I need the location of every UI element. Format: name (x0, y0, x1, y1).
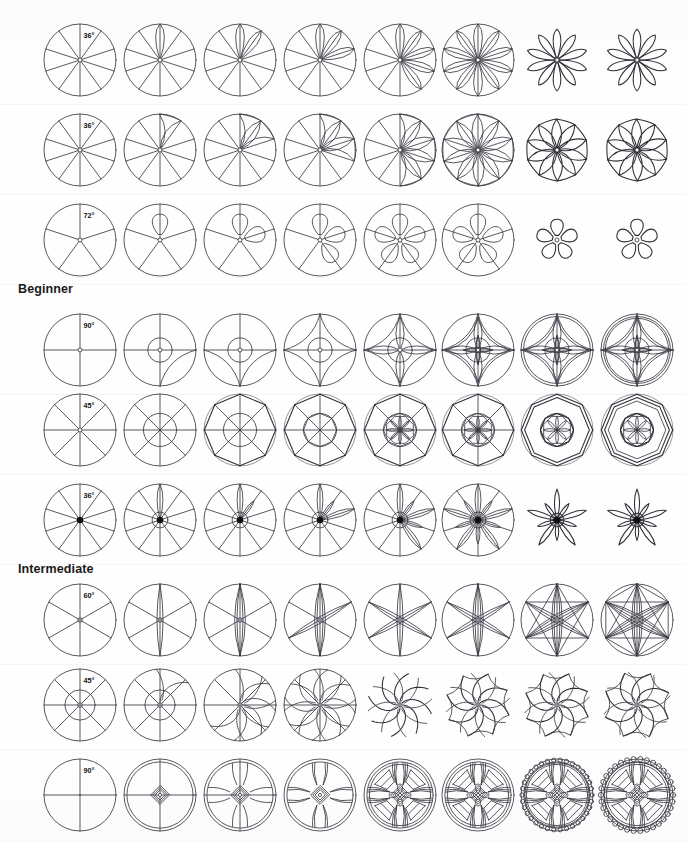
pattern-figure: 45° (41, 661, 119, 749)
section-label-beginner: Beginner (18, 282, 73, 296)
scan-artifact-line (0, 194, 687, 195)
pattern-figure (361, 106, 439, 194)
pattern-figure (361, 196, 439, 284)
pattern-row: 72° (0, 196, 687, 284)
pattern-figure (439, 576, 517, 664)
pattern-figure (281, 476, 359, 564)
pattern-figure (439, 16, 517, 104)
pattern-figure: 60° (41, 576, 119, 664)
pattern-figure (201, 16, 279, 104)
pattern-row: 60° (0, 576, 687, 664)
pattern-figure (518, 661, 596, 749)
pattern-figure: 36° (41, 476, 119, 564)
pattern-figure (121, 196, 199, 284)
pattern-figure (361, 661, 439, 749)
pattern-figure (361, 306, 439, 394)
pattern-figure (439, 751, 517, 839)
pattern-row: 90° (0, 751, 687, 839)
pattern-figure (201, 306, 279, 394)
pattern-figure (201, 751, 279, 839)
pattern-figure (201, 196, 279, 284)
pattern-figure (518, 196, 596, 284)
pattern-figure (281, 751, 359, 839)
pattern-figure (121, 751, 199, 839)
pattern-figure: 72° (41, 196, 119, 284)
pattern-row: 36° (0, 106, 687, 194)
pattern-figure (201, 476, 279, 564)
pattern-figure (201, 106, 279, 194)
pattern-figure (281, 106, 359, 194)
angle-label: 72° (84, 211, 95, 220)
angle-label: 45° (84, 676, 95, 685)
section-label-intermediate: Intermediate (18, 562, 94, 576)
pattern-figure (518, 386, 596, 474)
pattern-figure (598, 196, 676, 284)
pattern-figure (518, 751, 596, 839)
pattern-figure (598, 476, 676, 564)
pattern-figure (598, 661, 676, 749)
pattern-figure: 90° (41, 751, 119, 839)
pattern-figure (201, 386, 279, 474)
angle-label: 36° (84, 31, 95, 40)
angle-label: 90° (84, 766, 95, 775)
pattern-figure (598, 386, 676, 474)
angle-label: 60° (84, 591, 95, 600)
pattern-figure (361, 386, 439, 474)
pattern-figure (121, 386, 199, 474)
pattern-figure (518, 106, 596, 194)
pattern-figure: 45° (41, 386, 119, 474)
pattern-figure (281, 196, 359, 284)
pattern-figure (121, 306, 199, 394)
pattern-figure (598, 16, 676, 104)
pattern-figure (439, 106, 517, 194)
pattern-figure (121, 576, 199, 664)
scan-artifact-line (0, 474, 687, 475)
pattern-row: 36° (0, 476, 687, 564)
pattern-row: 90° (0, 306, 687, 394)
pattern-figure (361, 476, 439, 564)
scan-artifact-line (0, 749, 687, 750)
pattern-figure: 90° (41, 306, 119, 394)
pattern-figure (281, 16, 359, 104)
pattern-figure: 36° (41, 16, 119, 104)
pattern-figure (518, 306, 596, 394)
angle-label: 36° (84, 121, 95, 130)
pattern-figure (439, 476, 517, 564)
pattern-figure (201, 661, 279, 749)
scan-artifact-line (0, 104, 687, 105)
scan-artifact-line (0, 564, 687, 565)
angle-label: 36° (84, 491, 95, 500)
pattern-figure (518, 576, 596, 664)
pattern-figure (281, 661, 359, 749)
pattern-figure (439, 196, 517, 284)
pattern-figure (121, 106, 199, 194)
pattern-figure (518, 16, 596, 104)
pattern-figure (121, 476, 199, 564)
pattern-sheet: 36°36°72°90°45°36°60°45°90° (0, 0, 687, 842)
pattern-figure (121, 16, 199, 104)
pattern-row: 45° (0, 386, 687, 474)
pattern-row: 36° (0, 16, 687, 104)
scan-artifact-line (0, 284, 687, 285)
pattern-figure (518, 476, 596, 564)
pattern-figure (598, 106, 676, 194)
pattern-figure (598, 751, 676, 839)
pattern-figure (281, 576, 359, 664)
pattern-figure (598, 306, 676, 394)
angle-label: 90° (84, 321, 95, 330)
pattern-figure (201, 576, 279, 664)
pattern-figure (361, 16, 439, 104)
pattern-figure (281, 386, 359, 474)
pattern-figure (598, 576, 676, 664)
pattern-figure: 36° (41, 106, 119, 194)
angle-label: 45° (84, 401, 95, 410)
pattern-figure (281, 306, 359, 394)
pattern-figure (361, 751, 439, 839)
pattern-figure (439, 306, 517, 394)
pattern-figure (439, 661, 517, 749)
pattern-figure (121, 661, 199, 749)
pattern-figure (361, 576, 439, 664)
pattern-figure (439, 386, 517, 474)
pattern-row: 45° (0, 661, 687, 749)
